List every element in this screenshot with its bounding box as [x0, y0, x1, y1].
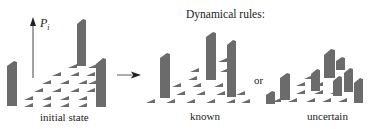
bar	[7, 61, 17, 106]
bar	[324, 49, 335, 78]
axis-label-subscript: i	[47, 23, 49, 32]
bar	[311, 69, 320, 91]
label-uncertain: uncertain	[307, 110, 348, 122]
panel-known	[146, 32, 250, 103]
cell-grid	[24, 64, 97, 107]
right-arrow-icon	[117, 72, 141, 79]
bar	[206, 32, 216, 80]
label-initial-state: initial state	[40, 111, 89, 123]
bar	[354, 78, 363, 103]
bar	[266, 91, 275, 104]
axis-label: Pi	[40, 16, 50, 32]
or-connector: or	[254, 74, 263, 86]
bar	[280, 73, 290, 100]
bar	[160, 53, 170, 98]
up-arrow-icon	[30, 17, 36, 78]
bar	[336, 57, 345, 70]
bar	[344, 68, 353, 92]
bar	[96, 58, 106, 107]
panel-uncertain	[266, 49, 363, 104]
label-known: known	[190, 110, 220, 122]
panel-initial-state	[7, 17, 106, 107]
dynamical-rules-title: Dynamical rules:	[186, 8, 265, 20]
bar	[77, 19, 86, 66]
